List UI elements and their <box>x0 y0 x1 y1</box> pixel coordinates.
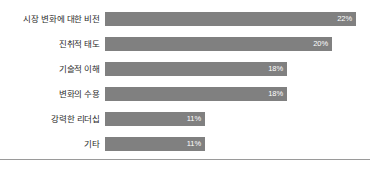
bar-row: 변화의 수용 18% <box>0 87 370 101</box>
bar-fill: 22% <box>105 12 356 26</box>
bar-value-label: 11% <box>187 137 201 151</box>
bar-value-label: 20% <box>313 37 328 51</box>
bar-fill: 11% <box>105 112 205 126</box>
bar-value-label: 18% <box>268 87 283 101</box>
bar-value-label: 18% <box>268 62 283 76</box>
bar-fill: 11% <box>105 137 205 151</box>
bar-row: 기타 11% <box>0 137 370 151</box>
bar-value-label: 22% <box>337 12 352 26</box>
bar-category-label: 기타 <box>0 137 100 151</box>
chart-plot-area: 시장 변화에 대한 비전 22% 진취적 태도 20% 기술적 이해 18% <box>0 12 370 162</box>
bar-value-label: 11% <box>187 112 201 126</box>
bar-row: 기술적 이해 18% <box>0 62 370 76</box>
bar-category-label: 강력한 리더십 <box>0 112 100 126</box>
bar-category-label: 변화의 수용 <box>0 87 100 101</box>
bar-row: 진취적 태도 20% <box>0 37 370 51</box>
bar-category-label: 시장 변화에 대한 비전 <box>0 12 100 26</box>
bar-row: 강력한 리더십 11% <box>0 112 370 126</box>
bar-fill: 20% <box>105 37 332 51</box>
bar-track: 11% <box>105 137 205 151</box>
bar-track: 11% <box>105 112 205 126</box>
horizontal-bar-chart: 시장 변화에 대한 비전 22% 진취적 태도 20% 기술적 이해 18% <box>0 0 370 172</box>
bar-fill: 18% <box>105 87 287 101</box>
footer-divider <box>0 159 370 160</box>
bar-category-label: 기술적 이해 <box>0 62 100 76</box>
bar-track: 18% <box>105 62 287 76</box>
bar-row: 시장 변화에 대한 비전 22% <box>0 12 370 26</box>
bar-track: 20% <box>105 37 332 51</box>
bar-track: 18% <box>105 87 287 101</box>
bar-track: 22% <box>105 12 356 26</box>
bar-fill: 18% <box>105 62 287 76</box>
bar-category-label: 진취적 태도 <box>0 37 100 51</box>
